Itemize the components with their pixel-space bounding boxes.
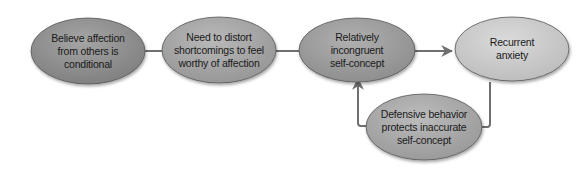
- node-label-incongruent-self-concept: Relatively incongruent self-concept: [307, 25, 407, 75]
- label-line: self-concept: [381, 134, 467, 147]
- label-line: self-concept: [330, 57, 384, 70]
- edge-n5-n3: [358, 79, 367, 126]
- label-line: worthy of affection: [174, 57, 264, 70]
- label-line: Recurrent: [490, 36, 534, 49]
- label-line: Believe affection: [51, 32, 124, 45]
- node-label-need-to-distort: Need to distort shortcomings to feel wor…: [166, 25, 272, 75]
- label-line: Need to distort: [174, 31, 264, 44]
- label-line: protects inaccurate: [381, 121, 467, 134]
- node-label-believe-affection: Believe affection from others is conditi…: [38, 26, 138, 76]
- node-label-recurrent-anxiety: Recurrent anxiety: [462, 24, 562, 74]
- label-line: anxiety: [490, 49, 534, 62]
- label-line: from others is: [51, 45, 124, 58]
- node-label-defensive-behavior: Defensive behavior protects inaccurate s…: [370, 102, 478, 152]
- label-line: incongruent: [330, 44, 384, 57]
- label-line: Relatively: [330, 31, 384, 44]
- label-line: shortcomings to feel: [174, 44, 264, 57]
- label-line: conditional: [51, 58, 124, 71]
- label-line: Defensive behavior: [381, 108, 467, 121]
